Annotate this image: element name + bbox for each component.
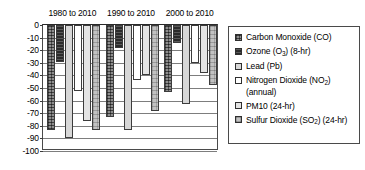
tick-mark	[40, 38, 43, 39]
legend-item[interactable]: Nitrogen Dioxide (NO2) (annual)	[235, 75, 355, 97]
y-axis-tick-label: -80	[27, 122, 39, 131]
y-axis-tick-label: 0	[34, 21, 39, 30]
legend-swatch-icon	[235, 48, 242, 55]
legend-item-label: PM10 (24-hr)	[246, 101, 295, 112]
tick-mark	[40, 75, 43, 76]
bar	[133, 25, 141, 80]
legend-item-label: Lead (Pb)	[246, 61, 282, 72]
y-axis-tick-label: -100	[22, 147, 39, 156]
chart-legend: Carbon Monoxide (CO)Ozone (O3) (8-hr)Lea…	[228, 26, 360, 144]
y-axis-tick-label: -20	[27, 46, 39, 55]
bar	[151, 25, 159, 111]
y-axis-tick-label: -70	[27, 109, 39, 118]
bar	[173, 25, 181, 43]
tick-mark	[40, 113, 43, 114]
gridline	[43, 138, 217, 139]
bar	[209, 25, 217, 85]
group-label: 2000 to 2010	[160, 9, 220, 18]
bar	[83, 25, 91, 121]
group-label: 1980 to 2010	[42, 9, 102, 18]
tick-mark	[40, 88, 43, 89]
tick-mark	[40, 63, 43, 64]
bar	[164, 25, 172, 92]
legend-swatch-icon	[235, 63, 242, 70]
bar	[74, 25, 82, 91]
legend-swatch-icon	[235, 102, 242, 109]
legend-item[interactable]: Sulfur Dioxide (SO2) (24-hr)	[235, 115, 355, 127]
plot-area: 0-10-20-30-40-50-60-70-80-90-100	[42, 24, 218, 150]
tick-mark	[40, 50, 43, 51]
bar	[191, 25, 199, 63]
legend-item[interactable]: Ozone (O3) (8-hr)	[235, 46, 355, 58]
legend-item-label: Ozone (O3) (8-hr)	[246, 46, 310, 58]
bar	[142, 25, 150, 75]
y-axis-tick-label: -10	[27, 33, 39, 42]
legend-item[interactable]: Lead (Pb)	[235, 61, 355, 72]
y-axis-tick-label: -90	[27, 134, 39, 143]
bar	[200, 25, 208, 73]
bar	[65, 25, 73, 138]
tick-mark	[40, 126, 43, 127]
legend-swatch-icon	[235, 34, 242, 41]
bar	[115, 25, 123, 48]
bar-chart: 1980 to 20101990 to 20102000 to 2010 0-1…	[0, 0, 222, 170]
bar	[56, 25, 64, 62]
legend-item-label: Sulfur Dioxide (SO2) (24-hr)	[246, 115, 347, 127]
bar	[106, 25, 114, 117]
legend-item[interactable]: Carbon Monoxide (CO)	[235, 32, 355, 43]
tick-mark	[40, 138, 43, 139]
tick-mark	[40, 25, 43, 26]
legend-item[interactable]: PM10 (24-hr)	[235, 101, 355, 112]
y-axis-tick-label: -60	[27, 96, 39, 105]
tick-mark	[40, 101, 43, 102]
y-axis-tick-label: -40	[27, 71, 39, 80]
gridline	[43, 151, 217, 152]
tick-mark	[40, 151, 43, 152]
bar	[47, 25, 55, 130]
y-axis-tick-label: -50	[27, 84, 39, 93]
chart-screenshot: 1980 to 20101990 to 20102000 to 2010 0-1…	[0, 0, 365, 170]
bar	[124, 25, 132, 130]
y-axis-tick-label: -30	[27, 59, 39, 68]
legend-item-label: Nitrogen Dioxide (NO2) (annual)	[246, 75, 355, 97]
group-label: 1990 to 2010	[101, 9, 161, 18]
bar	[92, 25, 100, 130]
legend-item-label: Carbon Monoxide (CO)	[246, 32, 331, 43]
legend-swatch-icon	[235, 116, 242, 123]
bar	[182, 25, 190, 104]
legend-swatch-icon	[235, 77, 242, 84]
